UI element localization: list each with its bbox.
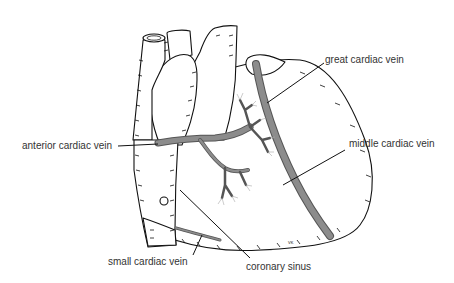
label-small-cardiac-vein: small cardiac vein	[108, 256, 187, 268]
artist-signature: VK	[288, 240, 294, 245]
coronary-sinus-ostium	[160, 197, 168, 205]
label-middle-cardiac-vein: middle cardiac vein	[349, 138, 435, 150]
label-coronary-sinus: coronary sinus	[246, 261, 311, 273]
label-anterior-cardiac-vein: anterior cardiac vein	[22, 140, 112, 152]
label-great-cardiac-vein: great cardiac vein	[325, 54, 404, 66]
